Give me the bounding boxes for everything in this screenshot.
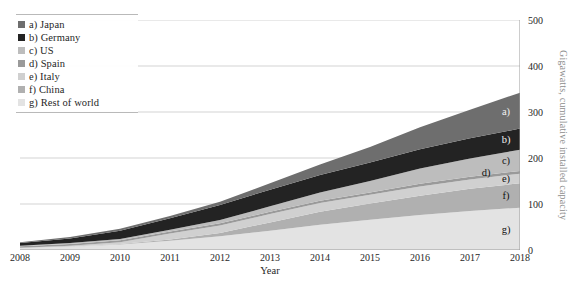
legend-label-us: c) US xyxy=(29,44,54,57)
y-tick-100: 100 xyxy=(528,199,543,210)
legend-label-italy: e) Italy xyxy=(29,70,60,83)
chart-root: a)b)c)d)e)f)g) a) Japan b) Germany c) US… xyxy=(0,0,588,286)
x-tick-2017: 2017 xyxy=(460,252,480,263)
y-tick-200: 200 xyxy=(528,153,543,164)
y-tick-0: 0 xyxy=(528,245,533,256)
legend-swatch-china xyxy=(18,86,25,93)
y-tick-500: 500 xyxy=(528,15,543,26)
y-tick-400: 400 xyxy=(528,61,543,72)
legend-label-rest-of-world: g) Rest of world xyxy=(29,96,99,109)
legend-label-japan: a) Japan xyxy=(29,18,65,31)
legend-swatch-italy xyxy=(18,73,25,80)
x-tick-2010: 2010 xyxy=(110,252,130,263)
x-tick-2008: 2008 xyxy=(10,252,30,263)
legend-swatch-spain xyxy=(18,60,25,67)
x-tick-2016: 2016 xyxy=(410,252,430,263)
legend-label-china: f) China xyxy=(29,83,65,96)
legend-label-spain: d) Spain xyxy=(29,57,65,70)
legend-swatch-rest-of-world xyxy=(18,99,25,106)
legend-item-china[interactable]: f) China xyxy=(18,83,136,96)
legend-item-us[interactable]: c) US xyxy=(18,44,136,57)
legend-item-spain[interactable]: d) Spain xyxy=(18,57,136,70)
legend-swatch-us xyxy=(18,47,25,54)
y-axis-title: Gigawatts, cumulative installed capacity xyxy=(556,20,570,250)
area-bands xyxy=(20,93,520,250)
legend-item-italy[interactable]: e) Italy xyxy=(18,70,136,83)
legend: a) Japan b) Germany c) US d) Spain e) It… xyxy=(16,14,138,113)
x-tick-2009: 2009 xyxy=(60,252,80,263)
x-axis-title: Year xyxy=(260,265,279,276)
x-tick-2015: 2015 xyxy=(360,252,380,263)
x-tick-2014: 2014 xyxy=(310,252,330,263)
legend-label-germany: b) Germany xyxy=(29,31,80,44)
x-tick-2018: 2018 xyxy=(510,252,530,263)
legend-item-japan[interactable]: a) Japan xyxy=(18,18,136,31)
x-tick-2013: 2013 xyxy=(260,252,280,263)
legend-swatch-japan xyxy=(18,21,25,28)
y-tick-300: 300 xyxy=(528,107,543,118)
legend-item-germany[interactable]: b) Germany xyxy=(18,31,136,44)
legend-swatch-germany xyxy=(18,34,25,41)
x-tick-2012: 2012 xyxy=(210,252,230,263)
legend-item-rest-of-world[interactable]: g) Rest of world xyxy=(18,96,136,109)
x-tick-2011: 2011 xyxy=(160,252,180,263)
